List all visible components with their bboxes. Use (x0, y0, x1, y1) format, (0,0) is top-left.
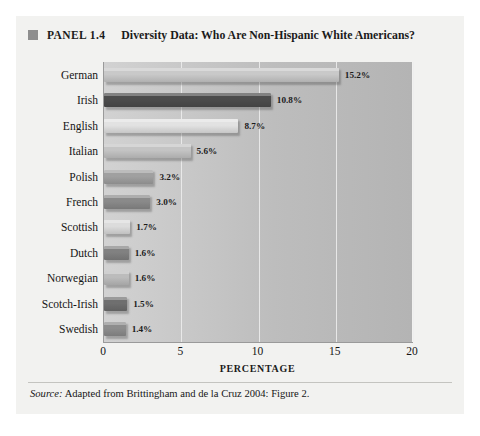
panel-card: PANEL 1.4 Diversity Data: Who Are Non-Hi… (16, 16, 464, 414)
bar-row: 10.8% (104, 87, 412, 112)
category-label: Scotch-Irish (16, 291, 98, 316)
bar-value-label: 1.7% (136, 222, 157, 232)
x-tick-label: 20 (406, 345, 418, 357)
source-divider (28, 382, 452, 383)
bar-row: 8.7% (104, 113, 412, 138)
bar (104, 246, 129, 260)
bar-value-label: 15.2% (345, 70, 370, 80)
category-label: English (16, 113, 98, 138)
category-axis-labels: GermanIrishEnglishItalianPolishFrenchSco… (16, 62, 98, 342)
bar-value-label: 3.2% (159, 172, 180, 182)
bar (104, 170, 153, 184)
x-tick-label: 0 (100, 345, 106, 357)
bar-row: 1.6% (104, 266, 412, 291)
bar (104, 119, 238, 133)
category-label: German (16, 62, 98, 87)
bar-value-label: 3.0% (156, 197, 177, 207)
bar-value-label: 1.6% (135, 273, 156, 283)
bar-series: 15.2%10.8%8.7%5.6%3.2%3.0%1.7%1.6%1.6%1.… (104, 62, 412, 342)
source-text: Adapted from Brittingham and de la Cruz … (63, 388, 310, 399)
bar-value-label: 1.5% (133, 299, 154, 309)
category-label: Dutch (16, 240, 98, 265)
bar (104, 271, 129, 285)
bar (104, 93, 271, 107)
x-tick-label: 10 (252, 345, 264, 357)
source-note: Source: Adapted from Brittingham and de … (30, 388, 309, 399)
source-prefix: Source: (30, 388, 63, 399)
category-label: Italian (16, 138, 98, 163)
bar (104, 144, 191, 158)
bar-value-label: 1.4% (132, 324, 153, 334)
bar (104, 297, 127, 311)
category-label: Polish (16, 164, 98, 189)
x-axis-title: PERCENTAGE (103, 363, 412, 374)
bar-value-label: 10.8% (277, 95, 302, 105)
bar-row: 3.0% (104, 189, 412, 214)
category-label: Irish (16, 87, 98, 112)
bar-row: 5.6% (104, 138, 412, 163)
chart-container: GermanIrishEnglishItalianPolishFrenchSco… (16, 16, 464, 414)
bar-row: 1.5% (104, 291, 412, 316)
category-label: Scottish (16, 215, 98, 240)
bar-value-label: 8.7% (244, 121, 265, 131)
x-axis-line (103, 342, 413, 343)
bar-value-label: 5.6% (197, 146, 218, 156)
category-label: Norwegian (16, 266, 98, 291)
x-tick-label: 5 (177, 345, 183, 357)
gridline (413, 62, 414, 342)
bar (104, 322, 126, 336)
bar (104, 220, 130, 234)
bar-row: 15.2% (104, 62, 412, 87)
bar (104, 68, 339, 82)
plot-area: 15.2%10.8%8.7%5.6%3.2%3.0%1.7%1.6%1.6%1.… (103, 62, 412, 342)
category-label: Swedish (16, 317, 98, 342)
bar-row: 1.6% (104, 240, 412, 265)
category-label: French (16, 189, 98, 214)
bar-row: 3.2% (104, 164, 412, 189)
bar-value-label: 1.6% (135, 248, 156, 258)
bar-row: 1.4% (104, 317, 412, 342)
x-tick-label: 15 (329, 345, 341, 357)
bar (104, 195, 150, 209)
bar-row: 1.7% (104, 215, 412, 240)
panel-figure: PANEL 1.4 Diversity Data: Who Are Non-Hi… (0, 0, 480, 436)
